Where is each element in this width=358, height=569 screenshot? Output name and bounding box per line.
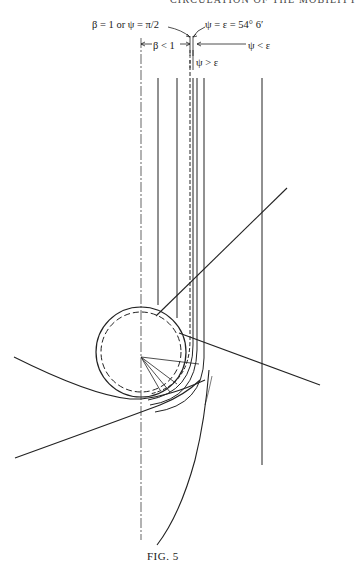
dimension-lines bbox=[141, 36, 246, 70]
descending-curve bbox=[157, 370, 209, 545]
leader-arrows bbox=[168, 27, 205, 37]
lower-left-curve bbox=[15, 380, 200, 458]
figure-caption: FIG. 5 bbox=[147, 550, 179, 562]
upper-left-curve bbox=[14, 357, 205, 399]
